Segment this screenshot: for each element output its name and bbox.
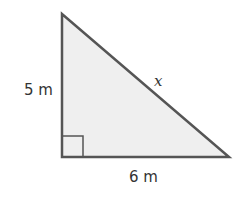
vertical-side-label: 5 m <box>24 81 53 99</box>
triangle <box>62 14 229 157</box>
right-triangle-diagram: 5 m 6 m x <box>0 0 244 197</box>
hypotenuse-label: x <box>154 72 163 90</box>
horizontal-side-label: 6 m <box>129 168 158 186</box>
